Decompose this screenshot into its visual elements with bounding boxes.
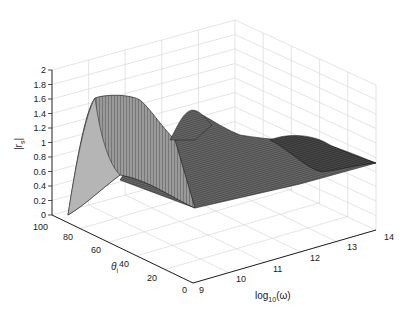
z-ticks <box>48 70 52 215</box>
svg-text:100: 100 <box>33 222 48 232</box>
svg-text:1: 1 <box>41 138 46 148</box>
svg-text:|rs|: |rs| <box>13 138 26 150</box>
svg-text:10: 10 <box>236 274 246 284</box>
x-tick-labels: 9 10 11 12 13 14 <box>199 232 394 295</box>
svg-text:θi: θi <box>111 261 118 274</box>
svg-text:0.8: 0.8 <box>33 152 46 162</box>
surface-mesh <box>68 95 376 215</box>
svg-text:0.6: 0.6 <box>33 167 46 177</box>
svg-text:13: 13 <box>347 242 357 252</box>
svg-text:80: 80 <box>63 232 73 242</box>
y-axis-label: θi <box>111 261 118 274</box>
svg-text:1.2: 1.2 <box>33 123 46 133</box>
z-tick-labels: 2 1.8 1.6 1.4 1.2 1 0.8 0.6 0.4 0.2 0 <box>33 65 46 220</box>
svg-text:11: 11 <box>273 264 282 274</box>
svg-text:1.4: 1.4 <box>33 109 46 119</box>
y-tick-labels: 100 80 60 40 20 0 <box>33 222 187 295</box>
svg-text:1.8: 1.8 <box>33 80 46 90</box>
svg-text:12: 12 <box>310 253 320 263</box>
svg-text:0.2: 0.2 <box>33 196 46 206</box>
x-axis-label: log10(ω) <box>255 290 291 303</box>
svg-text:14: 14 <box>384 232 394 242</box>
surface-plot: 2 1.8 1.6 1.4 1.2 1 0.8 0.6 0.4 0.2 0 10… <box>0 0 406 313</box>
svg-text:0: 0 <box>41 210 46 220</box>
z-axis-label: |rs| <box>13 138 26 150</box>
svg-text:20: 20 <box>147 273 157 283</box>
svg-text:9: 9 <box>199 285 204 295</box>
svg-text:40: 40 <box>119 259 129 269</box>
svg-text:0.4: 0.4 <box>33 181 46 191</box>
svg-text:0: 0 <box>182 285 187 295</box>
svg-text:log10(ω): log10(ω) <box>255 290 291 303</box>
svg-text:1.6: 1.6 <box>33 94 46 104</box>
svg-text:2: 2 <box>41 65 46 75</box>
svg-text:60: 60 <box>91 245 101 255</box>
